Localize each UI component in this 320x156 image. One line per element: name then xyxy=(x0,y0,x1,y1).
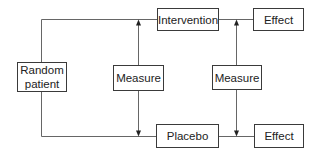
effect-bottom-label: Effect xyxy=(264,129,293,143)
intervention-node: Intervention xyxy=(157,8,219,31)
random-patient-node: Random patient xyxy=(17,62,67,92)
measure-left-node: Measure xyxy=(113,65,164,91)
placebo-node: Placebo xyxy=(156,124,219,148)
effect-top-label: Effect xyxy=(264,13,293,27)
arrow-up-icon xyxy=(234,20,239,26)
measure-left-label: Measure xyxy=(116,71,161,85)
arrow-down-icon xyxy=(136,131,141,137)
random-patient-line1: Random xyxy=(20,63,63,77)
measure-right-node: Measure xyxy=(212,65,262,90)
effect-top-node: Effect xyxy=(253,8,304,31)
arrow-down-icon xyxy=(234,131,239,137)
effect-bottom-node: Effect xyxy=(254,124,304,148)
intervention-label: Intervention xyxy=(158,13,218,27)
placebo-label: Placebo xyxy=(167,129,209,143)
random-patient-line2: patient xyxy=(20,77,63,91)
measure-right-label: Measure xyxy=(215,71,260,85)
arrow-up-icon xyxy=(136,20,141,26)
